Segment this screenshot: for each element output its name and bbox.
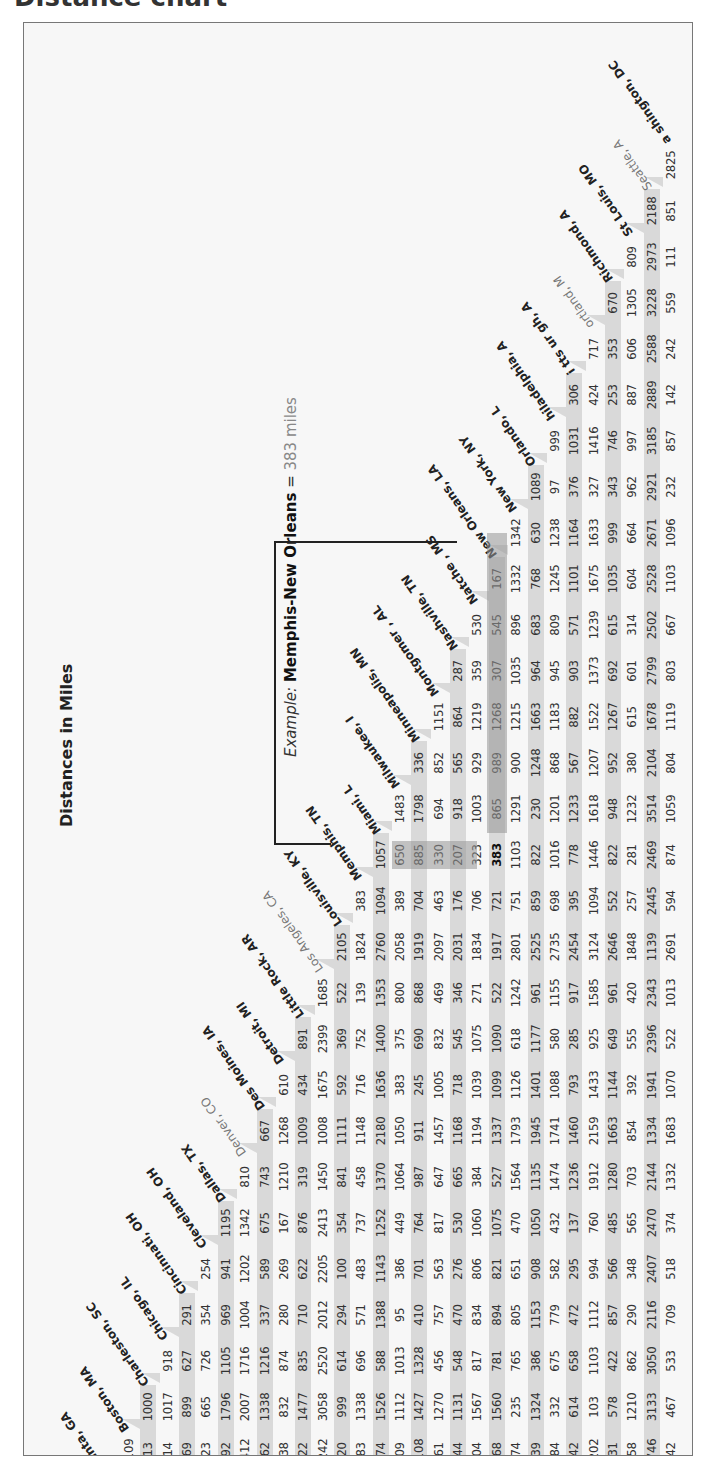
distance-cell: 1111 bbox=[334, 1109, 350, 1153]
distance-cell: 2520 bbox=[315, 1339, 331, 1383]
distance-cell: 380 bbox=[624, 741, 640, 785]
distance-cell: 614 bbox=[334, 1339, 350, 1383]
distance-cell: 1848 bbox=[624, 925, 640, 969]
distance-cell: 710 bbox=[295, 1293, 311, 1337]
distance-cell: 1636 bbox=[373, 1063, 389, 1107]
distance-cell: 1526 bbox=[373, 1385, 389, 1429]
distance-cell: 230 bbox=[528, 787, 544, 831]
distance-cell: 2104 bbox=[644, 741, 660, 785]
distance-cell: 1103 bbox=[663, 557, 679, 601]
distance-cell: 376 bbox=[566, 465, 582, 509]
distance-cell: 545 bbox=[450, 1017, 466, 1061]
distance-cell: 1741 bbox=[547, 1109, 563, 1153]
distance-cell: 463 bbox=[431, 879, 447, 923]
distance-cell: 2396 bbox=[644, 1017, 660, 1061]
distance-cell: 254 bbox=[198, 1247, 214, 1291]
distance-cell: 2407 bbox=[644, 1247, 660, 1291]
distance-cell: 692 bbox=[605, 649, 621, 693]
distance-cell: 139 bbox=[353, 971, 369, 1015]
distance-cell: 1334 bbox=[644, 1109, 660, 1153]
distance-cell: 533 bbox=[663, 1339, 679, 1383]
distance-cell: 1477 bbox=[295, 1385, 311, 1429]
distance-cell: 1268 bbox=[276, 1109, 292, 1153]
distance-cell: 485 bbox=[605, 1201, 621, 1245]
city-label: St Louis, MO bbox=[575, 161, 635, 239]
distance-cell: 841 bbox=[334, 1155, 350, 1199]
distance-cell: 253 bbox=[605, 373, 621, 417]
distance-cell: 1798 bbox=[411, 787, 427, 831]
distance-cell: 386 bbox=[528, 1339, 544, 1383]
distance-cell: 369 bbox=[334, 1017, 350, 1061]
distance-cell: 3514 bbox=[644, 787, 660, 831]
distance-cell: 531 bbox=[605, 1431, 621, 1456]
distance-cell: 1353 bbox=[373, 971, 389, 1015]
distance-cell: 383 bbox=[392, 1063, 408, 1107]
city-label: Dallas, TX bbox=[179, 1142, 229, 1205]
distance-cell: 874 bbox=[663, 833, 679, 877]
distance-cell: 670 bbox=[605, 281, 621, 325]
distance-cell: 1338 bbox=[257, 1385, 273, 1429]
distance-cell: 1460 bbox=[566, 1109, 582, 1153]
distance-cell: 483 bbox=[353, 1247, 369, 1291]
distance-cell: 701 bbox=[411, 1247, 427, 1291]
distance-cell: 348 bbox=[624, 1247, 640, 1291]
distance-cell: 891 bbox=[295, 1017, 311, 1061]
distance-cell: 1210 bbox=[276, 1155, 292, 1199]
distance-cell: 420 bbox=[624, 971, 640, 1015]
distance-cell: 1088 bbox=[547, 1063, 563, 1107]
distance-cell: 2097 bbox=[431, 925, 447, 969]
distance-cell: 2671 bbox=[644, 511, 660, 555]
distance-cell: 518 bbox=[663, 1247, 679, 1291]
distance-cell: 1427 bbox=[411, 1385, 427, 1429]
distance-cell: 458 bbox=[353, 1155, 369, 1199]
distance-cell: 857 bbox=[605, 1293, 621, 1337]
distance-cell: 527 bbox=[489, 1155, 505, 1199]
distance-cell: 566 bbox=[605, 1247, 621, 1291]
distance-cell: 1075 bbox=[489, 1201, 505, 1245]
distance-cell: 3133 bbox=[644, 1385, 660, 1429]
distance-cell: 420 bbox=[334, 1431, 350, 1456]
distance-cell: 2445 bbox=[644, 879, 660, 923]
distance-cell: 588 bbox=[373, 1339, 389, 1383]
distance-cell: 2502 bbox=[644, 603, 660, 647]
distance-cell: 343 bbox=[605, 465, 621, 509]
distance-cell: 1075 bbox=[469, 1017, 485, 1061]
distance-cell: 896 bbox=[508, 603, 524, 647]
distance-cell: 257 bbox=[624, 879, 640, 923]
distance-cell: 1416 bbox=[586, 419, 602, 463]
distance-cell: 2973 bbox=[644, 235, 660, 279]
distance-cell: 1675 bbox=[315, 1063, 331, 1107]
distance-cell: 1094 bbox=[373, 879, 389, 923]
city-label: Orlando, L bbox=[487, 404, 539, 469]
distance-cell: 167 bbox=[276, 1201, 292, 1245]
distance-cell: 1013 bbox=[392, 1339, 408, 1383]
distance-cell: 664 bbox=[624, 511, 640, 555]
distance-cell: 675 bbox=[547, 1339, 563, 1383]
distance-cell: 306 bbox=[566, 373, 582, 417]
distance-cell: 784 bbox=[547, 1431, 563, 1456]
distance-cell: 1332 bbox=[508, 557, 524, 601]
highlighted-distance-cell: 383 bbox=[489, 833, 505, 877]
distance-cell: 468 bbox=[489, 1431, 505, 1456]
distance-cell: 1219 bbox=[469, 695, 485, 739]
distance-cell: 1155 bbox=[547, 971, 563, 1015]
distance-cell: 781 bbox=[489, 1339, 505, 1383]
distance-cell: 1207 bbox=[586, 741, 602, 785]
distance-cell: 1139 bbox=[644, 925, 660, 969]
distance-cell: 271 bbox=[469, 971, 485, 1015]
distance-cell: 1560 bbox=[489, 1385, 505, 1429]
city-label: a shington, DC bbox=[606, 58, 674, 147]
distance-cell: 1005 bbox=[431, 1063, 447, 1107]
distance-cell: 606 bbox=[624, 327, 640, 371]
distance-cell: 467 bbox=[663, 1385, 679, 1429]
distance-cell: 601 bbox=[624, 649, 640, 693]
distance-cell: 874 bbox=[508, 1431, 524, 1456]
distance-cell: 999 bbox=[605, 511, 621, 555]
distance-cell: 565 bbox=[624, 1201, 640, 1245]
distance-cell: 952 bbox=[605, 741, 621, 785]
distance-cell: 987 bbox=[411, 1155, 427, 1199]
distance-cell: 1035 bbox=[605, 557, 621, 601]
distance-cell: 563 bbox=[431, 1247, 447, 1291]
distance-cell: 1633 bbox=[586, 511, 602, 555]
distance-cell: 3124 bbox=[586, 925, 602, 969]
